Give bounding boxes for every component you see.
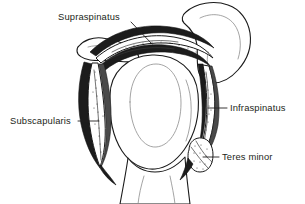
anatomy-figure: Supraspinatus Subscapularis Infraspinatu… xyxy=(0,0,305,204)
label-infraspinatus: Infraspinatus xyxy=(230,102,286,113)
label-teres-minor: Teres minor xyxy=(222,151,273,162)
label-supraspinatus: Supraspinatus xyxy=(58,11,120,22)
rotator-cuff-illustration: Supraspinatus Subscapularis Infraspinatu… xyxy=(0,0,305,204)
label-subscapularis: Subscapularis xyxy=(10,115,71,126)
